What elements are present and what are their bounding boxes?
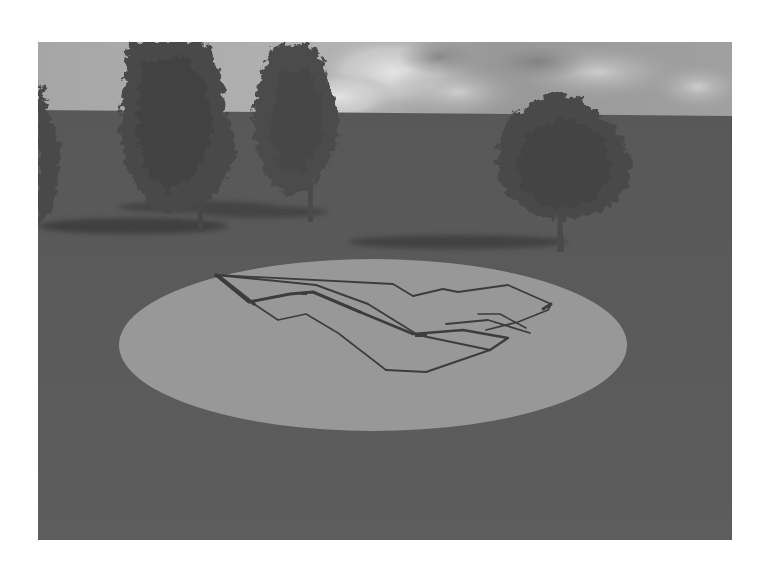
noise-overlay: [38, 42, 732, 540]
rendered-scene: [38, 42, 732, 540]
scene-svg: [38, 42, 732, 540]
page: Grayscale 3D render of a building floor …: [0, 0, 762, 568]
